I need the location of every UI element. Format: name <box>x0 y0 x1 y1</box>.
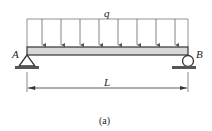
beam <box>27 47 188 55</box>
span-label: L <box>103 76 110 88</box>
distributed-load <box>27 19 188 47</box>
load-label: q <box>104 7 110 19</box>
roller-support-icon <box>172 56 196 70</box>
support-a-label: A <box>11 48 19 60</box>
support-b-label: B <box>196 48 203 60</box>
beam-diagram: q A B L (a) <box>0 0 212 131</box>
figure-caption: (a) <box>99 115 110 127</box>
